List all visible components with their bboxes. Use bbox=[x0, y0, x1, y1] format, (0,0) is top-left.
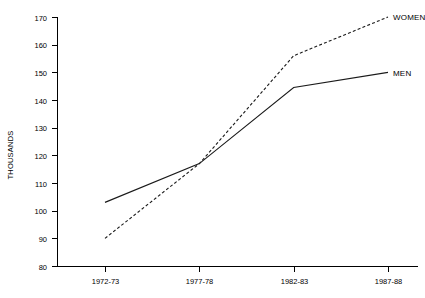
series-line-women bbox=[105, 17, 388, 238]
chart-canvas: 170 160 150 140 130 120 110 100 90 80 TH… bbox=[0, 0, 425, 298]
y-tick-label: 140 bbox=[34, 97, 47, 106]
x-tick-label: 1987-88 bbox=[375, 277, 403, 286]
x-tick-label: 1972-73 bbox=[92, 277, 120, 286]
y-tick-label: 80 bbox=[39, 263, 47, 272]
x-tick-label: 1982-83 bbox=[281, 277, 309, 286]
y-tick-label: 110 bbox=[35, 180, 47, 189]
y-axis-title: THOUSANDS bbox=[6, 131, 15, 180]
series-label-men: MEN bbox=[393, 69, 411, 78]
y-tick-label: 100 bbox=[34, 207, 47, 216]
y-tick-label: 130 bbox=[34, 124, 47, 133]
y-axis-ticks bbox=[52, 18, 58, 267]
line-chart: 170 160 150 140 130 120 110 100 90 80 TH… bbox=[0, 0, 425, 298]
series-line-men bbox=[105, 72, 388, 202]
x-tick-label: 1977-78 bbox=[186, 277, 214, 286]
y-tick-label: 120 bbox=[34, 152, 47, 161]
y-tick-label: 170 bbox=[34, 14, 47, 23]
y-tick-label: 150 bbox=[34, 69, 47, 78]
y-tick-label: 160 bbox=[34, 41, 47, 50]
series-label-women: WOMEN bbox=[393, 13, 425, 22]
y-tick-label: 90 bbox=[39, 235, 47, 244]
x-axis-ticks bbox=[106, 267, 389, 273]
